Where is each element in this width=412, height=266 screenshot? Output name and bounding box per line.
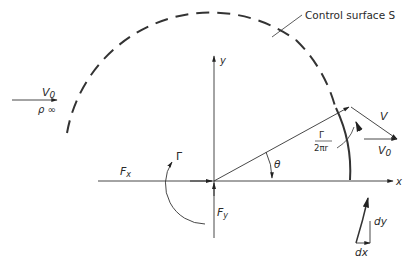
swirl-velocity-vector (356, 122, 360, 131)
control-surface-diagram: Control surface S V0 ρ ∞ y x Fx Fy Γ θ V… (0, 0, 412, 266)
x-axis-label: x (395, 176, 402, 187)
force-x-label: Fx (120, 165, 131, 179)
circulation-arc (165, 162, 205, 224)
freestream-velocity-label: V0 (42, 86, 56, 100)
control-surface-circle (67, 13, 350, 180)
radius-line (214, 107, 349, 181)
circulation-label: Γ (176, 150, 183, 163)
freestream-density-label: ρ ∞ (38, 104, 56, 115)
local-velocity-label: V (380, 110, 389, 123)
theta-label: θ (274, 158, 281, 170)
force-y-label: Fy (217, 206, 228, 220)
control-surface-label: Control surface S (305, 9, 395, 21)
surface-velocity-label: V0 (378, 144, 392, 158)
dx-label: dx (355, 246, 369, 258)
swirl-numerator: Γ (319, 130, 324, 140)
y-axis-label: y (219, 55, 227, 66)
swirl-denominator: 2πr (314, 143, 329, 153)
surface-element (356, 198, 368, 243)
theta-arc (266, 152, 272, 178)
local-velocity-vector (351, 107, 397, 139)
dy-label: dy (374, 215, 388, 227)
